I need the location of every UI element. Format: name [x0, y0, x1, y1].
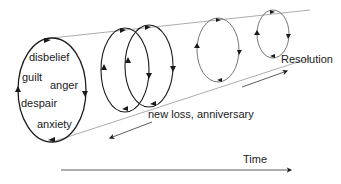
label-time: Time: [243, 154, 267, 165]
diagram-canvas: [0, 0, 341, 184]
cycle-ellipse-4: [197, 18, 239, 82]
label-anger: anger: [50, 80, 78, 91]
new-loss-arrow: [110, 122, 152, 138]
grief-cycle-diagram: disbelief guilt anger despair anxiety ne…: [0, 0, 341, 184]
label-despair: despair: [21, 98, 57, 109]
cone-top-line: [52, 10, 310, 38]
label-anxiety: anxiety: [37, 119, 72, 130]
label-resolution: Resolution: [281, 54, 333, 65]
cone-bottom-line: [52, 58, 310, 142]
cycle-ellipse-5: [257, 10, 289, 58]
label-guilt: guilt: [22, 72, 42, 83]
label-disbelief: disbelief: [29, 52, 69, 63]
label-new-loss: new loss, anniversary: [148, 109, 254, 120]
resolution-arrow: [242, 71, 287, 87]
